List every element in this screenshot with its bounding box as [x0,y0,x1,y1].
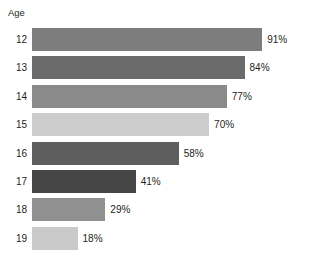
category-label: 12 [0,28,27,51]
bar [32,142,179,165]
bar [32,85,227,108]
bar-row: 1829% [0,198,328,221]
category-axis-title: Age [8,7,25,19]
bar [32,170,136,193]
bar-value-label: 41% [141,170,161,193]
category-label: 13 [0,56,27,79]
bar-value-label: 58% [184,142,204,165]
bar-row: 1570% [0,113,328,136]
category-label: 15 [0,113,27,136]
bar [32,28,262,51]
bar [32,56,245,79]
bar-value-label: 84% [250,56,270,79]
category-label: 14 [0,85,27,108]
bar [32,227,78,250]
category-label: 19 [0,227,27,250]
category-label: 17 [0,170,27,193]
plot-area: 1291%1384%1477%1570%1658%1741%1829%1918% [0,28,328,260]
bar-row: 1477% [0,85,328,108]
bar-row: 1741% [0,170,328,193]
bar-row: 1918% [0,227,328,250]
bar-value-label: 77% [232,85,252,108]
category-label: 16 [0,142,27,165]
bar-chart: Age 1291%1384%1477%1570%1658%1741%1829%1… [0,0,328,271]
bar-value-label: 70% [214,113,234,136]
bar-row: 1384% [0,56,328,79]
category-label: 18 [0,198,27,221]
bar [32,198,105,221]
bar-value-label: 18% [83,227,103,250]
bar-row: 1291% [0,28,328,51]
bar-value-label: 91% [267,28,287,51]
bar-row: 1658% [0,142,328,165]
bar [32,113,209,136]
bar-value-label: 29% [110,198,130,221]
